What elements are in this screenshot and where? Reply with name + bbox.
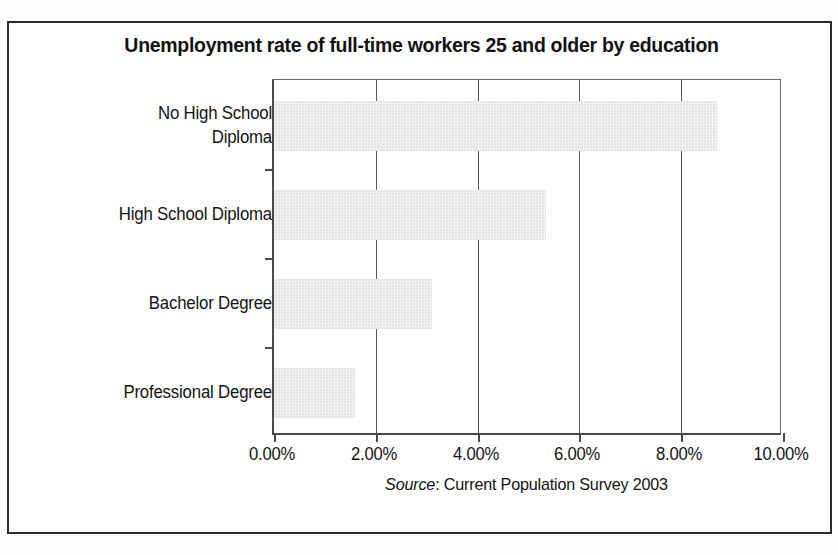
category-label: No High SchoolDiploma bbox=[42, 101, 272, 149]
x-axis-tick bbox=[376, 433, 378, 442]
x-axis-tick-label: 8.00% bbox=[627, 444, 732, 465]
bar bbox=[274, 279, 432, 329]
plot-area bbox=[272, 79, 781, 435]
bar bbox=[274, 101, 717, 151]
category-label-line: No High School bbox=[42, 101, 272, 125]
x-axis-tick bbox=[681, 433, 683, 442]
bar bbox=[274, 368, 355, 418]
x-axis-tick-label: 2.00% bbox=[322, 444, 427, 465]
source-word: Source bbox=[385, 475, 435, 494]
x-axis-tick bbox=[478, 433, 480, 442]
x-axis-tick bbox=[783, 433, 785, 442]
x-axis-tick bbox=[274, 433, 276, 442]
source-text: Current Population Survey 2003 bbox=[444, 475, 668, 494]
x-axis-tick bbox=[579, 433, 581, 442]
category-axis-labels: No High SchoolDiplomaHigh School Diploma… bbox=[22, 79, 272, 435]
category-label: High School Diploma bbox=[42, 202, 272, 226]
category-label: Professional Degree bbox=[42, 380, 272, 404]
category-label-line: High School Diploma bbox=[42, 202, 272, 226]
category-label-line: Professional Degree bbox=[42, 380, 272, 404]
chart-frame-border: Unemployment rate of full-time workers 2… bbox=[7, 21, 832, 534]
x-axis-tick-label: 10.00% bbox=[729, 444, 834, 465]
figure-container: Unemployment rate of full-time workers 2… bbox=[0, 0, 838, 555]
category-label: Bachelor Degree bbox=[42, 291, 272, 315]
x-axis-tick-label: 4.00% bbox=[423, 444, 528, 465]
x-axis-tick-label: 0.00% bbox=[220, 444, 325, 465]
source-note: Source: Current Population Survey 2003 bbox=[285, 475, 769, 495]
chart-title: Unemployment rate of full-time workers 2… bbox=[68, 33, 776, 57]
x-axis-tick-labels: 0.00%2.00%4.00%6.00%8.00%10.00% bbox=[272, 444, 781, 474]
category-label-line: Bachelor Degree bbox=[42, 291, 272, 315]
x-axis-tick-label: 6.00% bbox=[525, 444, 630, 465]
bar bbox=[274, 190, 546, 240]
category-label-line: Diploma bbox=[42, 125, 272, 149]
